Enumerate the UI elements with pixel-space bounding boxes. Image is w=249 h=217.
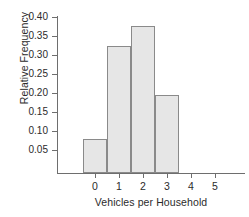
x-tick-label: 3 <box>157 180 177 192</box>
y-tick-label: 0.25 <box>29 68 48 79</box>
x-tick-2 <box>143 173 144 178</box>
y-tick-0.40: 0.40 <box>52 17 58 18</box>
histogram-bar <box>131 26 155 173</box>
plot-area: 0.40 0.35 0.30 0.25 0.20 0.15 0.10 0.05 … <box>0 0 249 217</box>
histogram-chart: Relative Frequency 0.40 0.35 0.30 0.25 0… <box>0 0 249 217</box>
x-tick-label: 2 <box>133 180 153 192</box>
y-tick-label: 0.40 <box>29 11 48 22</box>
x-tick-1 <box>119 173 120 178</box>
x-tick-3 <box>167 173 168 178</box>
y-tick-0.10: 0.10 <box>52 131 58 132</box>
y-tick-label: 0.20 <box>29 87 48 98</box>
x-tick-5 <box>215 173 216 178</box>
x-tick-label: 4 <box>181 180 201 192</box>
y-tick-0.25: 0.25 <box>52 74 58 75</box>
x-axis-label: Vehicles per Household <box>57 196 245 208</box>
histogram-bar <box>83 139 107 173</box>
y-tick-label: 0.15 <box>29 106 48 117</box>
y-tick-0.35: 0.35 <box>52 36 58 37</box>
x-tick-label: 5 <box>205 180 225 192</box>
x-tick-0 <box>95 173 96 178</box>
y-tick-0.20: 0.20 <box>52 93 58 94</box>
y-tick-0.30: 0.30 <box>52 55 58 56</box>
x-axis-line <box>57 173 245 174</box>
x-tick-label: 0 <box>85 180 105 192</box>
y-tick-label: 0.35 <box>29 30 48 41</box>
y-tick-0.15: 0.15 <box>52 112 58 113</box>
histogram-bar <box>107 46 131 173</box>
y-tick-label: 0.05 <box>29 144 48 155</box>
y-tick-label: 0.30 <box>29 49 48 60</box>
histogram-bar <box>155 95 179 173</box>
x-tick-label: 1 <box>109 180 129 192</box>
y-tick-0.05: 0.05 <box>52 150 58 151</box>
y-tick-label: 0.10 <box>29 125 48 136</box>
x-tick-4 <box>191 173 192 178</box>
